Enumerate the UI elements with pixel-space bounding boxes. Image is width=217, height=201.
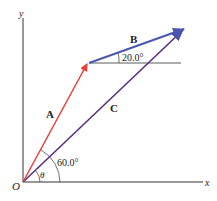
angle-arc-20 xyxy=(118,53,119,63)
x-axis-label: x xyxy=(204,177,210,188)
vector-c xyxy=(23,30,183,182)
origin-label: O xyxy=(12,180,20,192)
vector-diagram: y x O A B C 20.0° 60.0° θ xyxy=(0,0,217,201)
angle-label-theta: θ xyxy=(40,170,45,180)
vector-b-label: B xyxy=(130,33,138,45)
y-axis-label: y xyxy=(18,8,24,19)
vector-a-label: A xyxy=(46,108,54,120)
vector-c-label: C xyxy=(110,102,118,114)
angle-label-60: 60.0° xyxy=(57,157,79,168)
angle-label-20: 20.0° xyxy=(122,52,144,63)
